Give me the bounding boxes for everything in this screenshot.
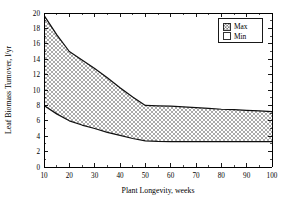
x-tick-label: 30 xyxy=(91,172,99,180)
chart-legend: Max Min xyxy=(219,19,263,43)
y-tick-label: 6 xyxy=(36,117,40,125)
legend-swatch-max xyxy=(223,23,230,30)
y-tick-label: 16 xyxy=(33,40,41,48)
x-tick-label: 80 xyxy=(218,172,226,180)
x-tick-label: 100 xyxy=(267,172,278,180)
y-tick-label: 10 xyxy=(33,87,41,95)
y-tick-label: 12 xyxy=(33,71,41,79)
chart-canvas: 102030405060708090100 02468101214161820 … xyxy=(0,0,292,203)
legend-swatch-min xyxy=(223,33,230,40)
x-tick-label: 10 xyxy=(40,172,48,180)
legend-label-max: Max xyxy=(234,22,248,31)
x-tick-label: 40 xyxy=(116,172,124,180)
y-axis-title: Leaf Biomass Turnover, l/yr xyxy=(4,46,13,134)
x-tick-label: 90 xyxy=(243,172,251,180)
y-tick-label: 4 xyxy=(36,133,40,141)
y-tick-label: 8 xyxy=(36,102,40,110)
y-tick-label: 0 xyxy=(36,164,40,172)
x-tick-label: 70 xyxy=(192,172,200,180)
x-axis-title: Plant Longevity, weeks xyxy=(122,186,195,195)
y-tick-label: 20 xyxy=(33,10,41,18)
y-tick-label: 18 xyxy=(33,25,41,33)
x-tick-label: 20 xyxy=(66,172,74,180)
x-tick-label: 50 xyxy=(142,172,150,180)
chart-figure: 102030405060708090100 02468101214161820 … xyxy=(0,0,292,203)
legend-label-min: Min xyxy=(234,32,247,41)
x-tick-label: 60 xyxy=(167,172,175,180)
y-tick-label: 2 xyxy=(36,148,40,156)
y-tick-label: 14 xyxy=(33,56,41,64)
